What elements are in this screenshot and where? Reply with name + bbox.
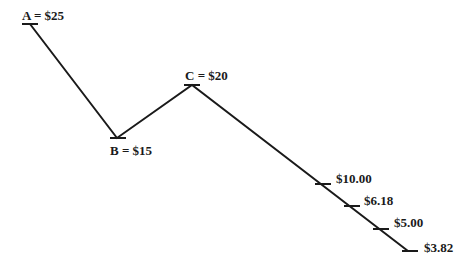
price-path-line (30, 24, 408, 251)
label-level-3: $5.00 (394, 215, 423, 230)
label-level-4: $3.82 (424, 240, 453, 255)
abc-projection-chart: A = $25 B = $15 C = $20 $10.00 $6.18 $5.… (0, 0, 472, 269)
label-point-a: A = $25 (22, 8, 65, 23)
label-level-2: $6.18 (364, 193, 394, 208)
label-level-1: $10.00 (336, 171, 372, 186)
label-point-c: C = $20 (185, 68, 228, 83)
label-point-b: B = $15 (110, 143, 153, 158)
